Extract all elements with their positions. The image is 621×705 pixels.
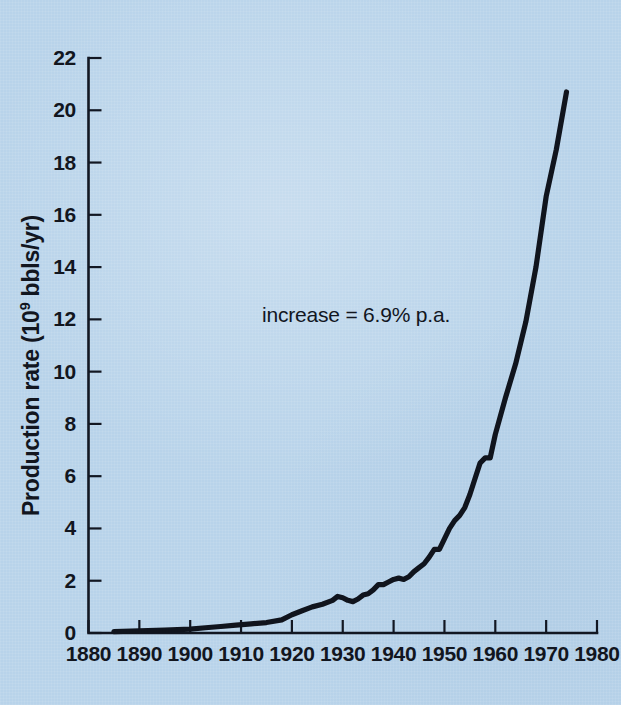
plot-area: [0, 0, 621, 705]
y-axis-title-exponent: 9: [17, 303, 33, 311]
x-tick-label: 1910: [218, 642, 264, 666]
x-tick-label: 1920: [269, 642, 315, 666]
y-tick-label: 2: [24, 569, 76, 593]
x-tick-label: 1880: [66, 642, 112, 666]
y-axis-title: Production rate (109 bbls/yr): [18, 186, 45, 546]
y-tick-label: 18: [24, 151, 76, 175]
x-tick-label: 1940: [371, 642, 417, 666]
y-axis-title-tail: bbls/yr): [18, 215, 44, 303]
x-tick-label: 1900: [167, 642, 213, 666]
x-tick-label: 1960: [473, 642, 519, 666]
x-tick-label: 1890: [117, 642, 163, 666]
growth-rate-annotation: increase = 6.9% p.a.: [262, 303, 450, 327]
x-tick-label: 1980: [574, 642, 620, 666]
production-curve: [114, 92, 567, 632]
x-tick-label: 1930: [320, 642, 366, 666]
x-tick-label: 1970: [523, 642, 569, 666]
y-axis-title-base: Production rate (10: [18, 310, 44, 516]
y-tick-label: 20: [24, 98, 76, 122]
chart-figure: 0246810121416182022 18801890190019101920…: [0, 0, 621, 705]
y-tick-label: 22: [24, 46, 76, 70]
data-series-group: [114, 92, 567, 632]
x-tick-label: 1950: [422, 642, 468, 666]
